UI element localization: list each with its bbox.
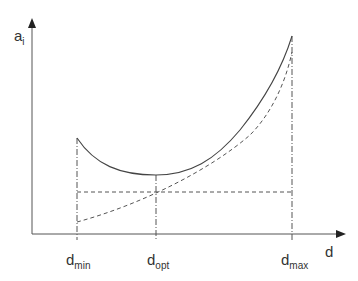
tick-sub: min [74,260,90,271]
tick-sub: max [289,260,308,271]
y-axis-arrow-icon [28,18,36,28]
increasing-dashed-curve [77,52,292,222]
y-axis-label-sub: i [22,36,24,47]
y-axis-label: ai [14,28,25,47]
tick-sub: opt [155,260,169,271]
tick-label-dmin: dmin [66,252,90,271]
x-axis-label-text: d [325,243,333,260]
tick-label-dmax: dmax [281,252,308,271]
total-solid-curve [77,36,292,175]
tick-label-dopt: dopt [147,252,169,271]
diagram-canvas [0,0,358,281]
x-axis-label: d [325,244,333,259]
x-axis-arrow-icon [336,230,346,238]
